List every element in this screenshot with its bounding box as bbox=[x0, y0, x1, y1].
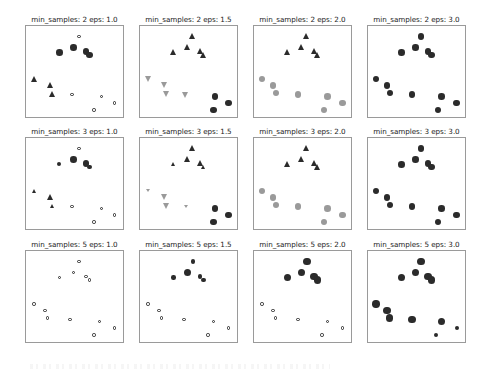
cluster-point-marker-circle bbox=[270, 82, 277, 89]
noise-point-marker bbox=[70, 93, 73, 96]
noise-point-marker bbox=[88, 278, 91, 281]
cluster-point-marker-triangle-down bbox=[182, 92, 188, 98]
cluster-point-marker-triangle-down bbox=[145, 76, 151, 82]
cluster-point-marker-circle bbox=[409, 91, 416, 98]
cluster-point-marker-circle bbox=[56, 49, 63, 56]
noise-point-marker bbox=[98, 320, 101, 323]
cluster-point-marker-circle bbox=[412, 44, 419, 51]
noise-point-marker bbox=[77, 35, 80, 38]
noise-point-marker bbox=[92, 108, 95, 111]
cluster-point-marker-circle bbox=[417, 258, 424, 265]
cluster-point-marker-triangle-up bbox=[170, 49, 176, 55]
cluster-point-marker-circle bbox=[372, 300, 379, 307]
noise-point-marker bbox=[92, 333, 95, 336]
cluster-point-marker-circle bbox=[184, 269, 191, 276]
cluster-point-marker-triangle-up bbox=[31, 76, 37, 82]
cluster-point-marker-triangle-up bbox=[200, 52, 206, 58]
noise-point-marker bbox=[113, 213, 116, 216]
subplot-title: min_samples: 3 eps: 3.0 bbox=[367, 126, 466, 137]
subplot-2-0: min_samples: 5 eps: 1.0 bbox=[25, 239, 124, 343]
cluster-point-marker-circle bbox=[418, 33, 425, 40]
cluster-point-marker-circle bbox=[321, 219, 328, 226]
subplot-0-0: min_samples: 2 eps: 1.0 bbox=[25, 14, 124, 118]
cluster-point-marker-circle bbox=[210, 107, 217, 114]
cluster-point-marker-triangle-down bbox=[161, 82, 167, 88]
noise-point-marker bbox=[113, 101, 116, 104]
cluster-point-marker-circle bbox=[295, 203, 302, 210]
axes-area bbox=[367, 25, 466, 118]
cluster-point-marker-circle bbox=[438, 93, 445, 100]
subplot-1-1: min_samples: 3 eps: 1.5 bbox=[139, 126, 238, 230]
cluster-point-marker-circle bbox=[201, 278, 205, 282]
cluster-point-marker-triangle-up bbox=[171, 162, 175, 166]
axes-area bbox=[25, 137, 124, 230]
cluster-point-marker-circle bbox=[383, 307, 390, 314]
subplot-title: min_samples: 2 eps: 1.5 bbox=[139, 14, 238, 25]
cluster-point-marker-circle bbox=[434, 333, 438, 337]
cropped-caption-artifact bbox=[30, 364, 330, 369]
cluster-point-marker-circle bbox=[212, 205, 219, 212]
subplot-title: min_samples: 3 eps: 2.0 bbox=[253, 126, 352, 137]
cluster-point-marker-circle bbox=[324, 93, 331, 100]
cluster-point-marker-triangle-up bbox=[201, 165, 205, 169]
noise-point-marker bbox=[212, 320, 215, 323]
cluster-point-marker-triangle-up bbox=[298, 44, 304, 50]
noise-point-marker bbox=[72, 271, 75, 274]
cluster-point-marker-circle bbox=[339, 100, 346, 107]
noise-point-marker bbox=[146, 302, 149, 305]
cluster-point-marker-circle bbox=[171, 275, 175, 279]
noise-point-marker bbox=[160, 316, 163, 319]
cluster-point-marker-triangle-up bbox=[284, 161, 290, 167]
subplot-1-3: min_samples: 3 eps: 3.0 bbox=[367, 126, 466, 230]
cluster-point-marker-triangle-up bbox=[184, 44, 190, 50]
cluster-point-marker-triangle-up bbox=[50, 204, 54, 208]
cluster-point-marker-circle bbox=[70, 44, 77, 51]
cluster-point-marker-circle bbox=[438, 205, 445, 212]
subplot-title: min_samples: 5 eps: 1.5 bbox=[139, 239, 238, 250]
noise-point-marker bbox=[296, 318, 299, 321]
cluster-point-marker-circle bbox=[191, 259, 195, 263]
cluster-point-marker-circle bbox=[398, 49, 405, 56]
noise-point-marker bbox=[100, 207, 103, 210]
cluster-point-marker-circle bbox=[321, 107, 328, 114]
cluster-point-marker-circle bbox=[273, 90, 280, 97]
cluster-point-marker-circle bbox=[408, 316, 415, 323]
cluster-point-marker-circle bbox=[303, 258, 310, 265]
noise-point-marker bbox=[46, 316, 49, 319]
cluster-point-marker-circle bbox=[298, 269, 305, 276]
cluster-point-marker-circle bbox=[398, 161, 405, 168]
subplot-title: min_samples: 5 eps: 3.0 bbox=[367, 239, 466, 250]
axes-area bbox=[139, 137, 238, 230]
cluster-point-marker-circle bbox=[373, 76, 380, 83]
cluster-point-marker-circle bbox=[295, 91, 302, 98]
cluster-point-marker-triangle-up bbox=[189, 33, 195, 39]
cluster-point-marker-circle bbox=[384, 194, 391, 201]
subplot-title: min_samples: 5 eps: 1.0 bbox=[25, 239, 124, 250]
noise-point-marker bbox=[77, 260, 80, 263]
subplot-title: min_samples: 2 eps: 3.0 bbox=[367, 14, 466, 25]
cluster-point-marker-circle bbox=[87, 165, 92, 170]
subplot-title: min_samples: 3 eps: 1.5 bbox=[139, 126, 238, 137]
cluster-point-marker-circle bbox=[273, 202, 280, 209]
subplot-title: min_samples: 2 eps: 2.0 bbox=[253, 14, 352, 25]
axes-area bbox=[367, 137, 466, 230]
subplot-1-2: min_samples: 3 eps: 2.0 bbox=[253, 126, 352, 230]
axes-area bbox=[25, 25, 124, 118]
cluster-point-marker-circle bbox=[412, 269, 419, 276]
axes-area bbox=[139, 25, 238, 118]
cluster-point-marker-triangle-up bbox=[314, 52, 320, 58]
subplot-0-1: min_samples: 2 eps: 1.5 bbox=[139, 14, 238, 118]
noise-point-marker bbox=[100, 95, 103, 98]
cluster-point-marker-triangle-down bbox=[163, 91, 169, 97]
cluster-point-marker-circle bbox=[412, 156, 419, 163]
cluster-point-marker-triangle-up bbox=[47, 194, 53, 200]
cluster-point-marker-circle bbox=[212, 93, 219, 100]
cluster-point-marker-circle bbox=[259, 188, 266, 195]
noise-point-marker bbox=[271, 309, 274, 312]
cluster-point-marker-triangle-up bbox=[184, 156, 190, 162]
cluster-point-marker-circle bbox=[453, 212, 460, 219]
cluster-point-marker-triangle-up bbox=[298, 156, 304, 162]
cluster-point-marker-triangle-up bbox=[314, 164, 320, 170]
axes-area bbox=[253, 250, 352, 343]
axes-area bbox=[253, 137, 352, 230]
